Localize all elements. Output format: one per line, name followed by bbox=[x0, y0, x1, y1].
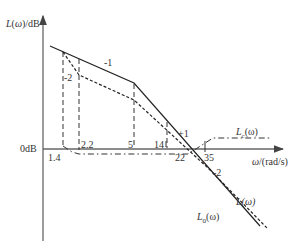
curve-label-L0: L0(ω) bbox=[197, 212, 219, 225]
slope-label-minus2-left: -2 bbox=[64, 73, 72, 83]
plot-canvas bbox=[0, 0, 302, 241]
freq-mark-5: 5 bbox=[128, 140, 133, 150]
bode-diagram: L(ω)/dB 0dB ω/(rad/s) 1.4 2.2 5 14 22 35… bbox=[0, 0, 302, 241]
slope-label-minus1: -1 bbox=[104, 58, 112, 68]
frequency-guides bbox=[63, 52, 167, 150]
freq-mark-35: 35 bbox=[204, 153, 214, 163]
slope-label-minus2-right: -2 bbox=[213, 168, 221, 178]
freq-mark-14: 14 bbox=[154, 140, 164, 150]
curve-L0 bbox=[50, 46, 260, 226]
curve-label-L: L(ω) bbox=[236, 197, 255, 207]
freq-mark-22: 22 bbox=[175, 153, 185, 163]
curve-label-Lc: Lc(ω) bbox=[236, 127, 258, 140]
freq-mark-1.4: 1.4 bbox=[48, 153, 61, 163]
freq-mark-2.2: 2.2 bbox=[81, 140, 94, 150]
y-axis-label: L(ω)/dB bbox=[6, 19, 40, 29]
x-axis-label: ω/(rad/s) bbox=[252, 157, 288, 167]
zero-db-label: 0dB bbox=[20, 144, 37, 154]
slope-label-plus1: +1 bbox=[178, 129, 189, 139]
